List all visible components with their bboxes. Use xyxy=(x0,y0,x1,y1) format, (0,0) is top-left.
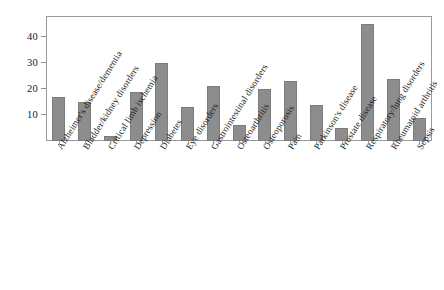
x-axis-tick-mark xyxy=(393,141,394,145)
x-axis-tick-mark xyxy=(85,141,86,145)
bar xyxy=(335,128,348,141)
x-axis-tick-mark xyxy=(188,141,189,145)
x-axis-tick-mark xyxy=(265,141,266,145)
bar xyxy=(207,86,220,141)
y-axis-tick-40: 40 xyxy=(0,31,46,43)
y-axis-tick-10: 10 xyxy=(0,109,46,121)
x-axis-tick-mark xyxy=(419,141,420,145)
y-axis: 10203040 xyxy=(0,0,46,142)
x-axis-tick-mark xyxy=(213,141,214,145)
bar xyxy=(78,102,91,141)
bar xyxy=(284,81,297,141)
bar xyxy=(130,92,143,141)
y-axis-tick-30: 30 xyxy=(0,57,46,69)
bar xyxy=(310,105,323,141)
bar xyxy=(233,125,246,141)
bars-layer xyxy=(46,16,432,141)
x-axis-tick-mark xyxy=(290,141,291,145)
bar xyxy=(181,107,194,141)
x-axis-tick-mark xyxy=(316,141,317,145)
x-axis-tick-mark xyxy=(59,141,60,145)
x-axis-tick-mark xyxy=(368,141,369,145)
x-axis-tick-mark xyxy=(110,141,111,145)
x-axis-tick-mark xyxy=(136,141,137,145)
bar-chart-figure: 10203040 Alzheimer's disease/dementiaBla… xyxy=(0,0,444,290)
bar xyxy=(258,89,271,141)
x-axis-tick-mark xyxy=(239,141,240,145)
x-axis-tick-mark xyxy=(342,141,343,145)
bar xyxy=(387,79,400,142)
bar xyxy=(52,97,65,141)
y-axis-tick-20: 20 xyxy=(0,83,46,95)
bar xyxy=(413,118,426,141)
bar xyxy=(361,24,374,141)
x-axis-tick-mark xyxy=(162,141,163,145)
bar xyxy=(155,63,168,141)
